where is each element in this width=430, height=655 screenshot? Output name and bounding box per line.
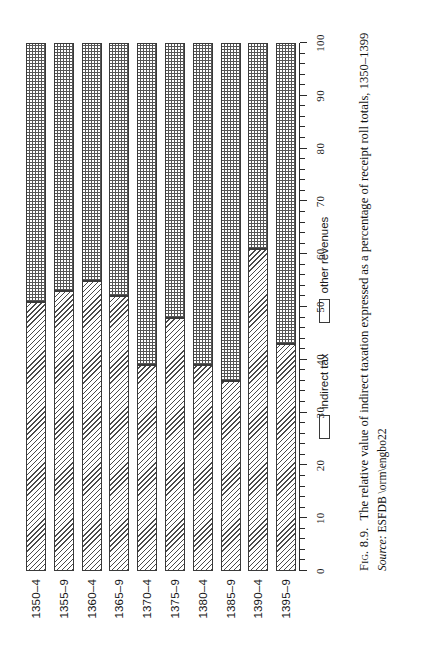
x-axis-minor-tick <box>300 401 305 402</box>
category-label: 1380–4 <box>197 579 209 619</box>
category-label: 1360–4 <box>86 579 98 619</box>
x-axis-minor-tick <box>300 549 305 550</box>
x-axis-minor-tick <box>300 338 305 339</box>
bar-row[interactable]: 1375–9 <box>165 43 185 571</box>
legend-item-other-revenues: other revenues <box>318 217 330 324</box>
x-axis-minor-tick <box>300 507 305 508</box>
x-axis-minor-tick <box>300 528 305 529</box>
x-axis-minor-tick <box>300 538 305 539</box>
bar-segment-hatch[interactable] <box>54 291 74 571</box>
x-axis-minor-tick <box>300 454 305 455</box>
x-axis-minor-tick <box>300 317 305 318</box>
bar-row[interactable]: 1350–4 <box>26 43 46 571</box>
bar-segment-dots[interactable] <box>82 43 102 281</box>
bar-row[interactable]: 1385–9 <box>221 43 241 571</box>
category-label: 1375–9 <box>169 579 181 619</box>
bar-row[interactable]: 1395–9 <box>276 43 296 571</box>
figure-caption: Fig. 8.9.The relative value of indirect … <box>356 31 373 571</box>
bar-segment-dots[interactable] <box>193 43 213 365</box>
legend-item-indirect-tax: indirect tax <box>318 353 330 439</box>
x-axis-minor-tick <box>300 443 305 444</box>
bar-segment-hatch[interactable] <box>165 318 185 571</box>
x-axis-major-tick <box>300 306 307 307</box>
x-axis-line <box>299 43 300 571</box>
legend-swatch-hatch-icon <box>319 415 330 439</box>
bar-segment-hatch[interactable] <box>26 302 46 571</box>
x-axis-minor-tick <box>300 422 305 423</box>
x-axis-major-tick <box>300 412 307 413</box>
x-axis-minor-tick <box>300 285 305 286</box>
x-axis-tick-label: 100 <box>314 28 326 58</box>
bar-segment-hatch[interactable] <box>109 296 129 571</box>
x-axis-minor-tick <box>300 295 305 296</box>
x-axis-tick-label: 10 <box>314 503 326 533</box>
source-label: Source: <box>376 535 389 571</box>
x-axis-minor-tick <box>300 486 305 487</box>
bar-segment-hatch[interactable] <box>193 365 213 571</box>
x-axis-major-tick <box>300 148 307 149</box>
x-axis-minor-tick <box>300 559 305 560</box>
x-axis-minor-tick <box>300 433 305 434</box>
figure-caption-block: Fig. 8.9.The relative value of indirect … <box>356 31 389 571</box>
category-label: 1365–9 <box>113 579 125 619</box>
bar-segment-hatch[interactable] <box>221 381 241 571</box>
bar-group: 1350–41355–91360–41365–91370–41375–91380… <box>22 43 300 571</box>
category-label: 1350–4 <box>30 579 42 619</box>
category-label: 1370–4 <box>141 579 153 619</box>
x-axis-minor-tick <box>300 380 305 381</box>
x-axis-minor-tick <box>300 179 305 180</box>
x-axis-minor-tick <box>300 211 305 212</box>
bar-row[interactable]: 1365–9 <box>109 43 129 571</box>
x-axis-minor-tick <box>300 116 305 117</box>
x-axis-major-tick <box>300 359 307 360</box>
x-axis-minor-tick <box>300 327 305 328</box>
category-label: 1390–4 <box>252 579 264 619</box>
legend-swatch-dots-icon <box>319 299 330 323</box>
category-label: 1385–9 <box>225 579 237 619</box>
x-axis-tick-label: 80 <box>314 134 326 164</box>
x-axis-tick-label: 0 <box>314 556 326 586</box>
bar-segment-hatch[interactable] <box>137 365 157 571</box>
bar-segment-dots[interactable] <box>109 43 129 296</box>
x-axis-minor-tick <box>300 274 305 275</box>
x-axis-minor-tick <box>300 53 305 54</box>
x-axis-minor-tick <box>300 63 305 64</box>
x-axis-major-tick <box>300 570 307 571</box>
x-axis-minor-tick <box>300 390 305 391</box>
bar-segment-dots[interactable] <box>276 43 296 344</box>
bar-row[interactable]: 1390–4 <box>248 43 268 571</box>
bar-segment-dots[interactable] <box>54 43 74 291</box>
x-axis-major-tick <box>300 253 307 254</box>
x-axis-major-tick <box>300 517 307 518</box>
x-axis-minor-tick <box>300 348 305 349</box>
x-axis-minor-tick <box>300 158 305 159</box>
legend-label-other-revenues: other revenues <box>318 217 330 294</box>
bar-segment-dots[interactable] <box>221 43 241 381</box>
bar-segment-hatch[interactable] <box>276 344 296 571</box>
x-axis-minor-tick <box>300 74 305 75</box>
x-axis-minor-tick <box>300 137 305 138</box>
x-axis-major-tick <box>300 42 307 43</box>
x-axis-minor-tick <box>300 222 305 223</box>
x-axis-minor-tick <box>300 264 305 265</box>
x-axis-minor-tick <box>300 475 305 476</box>
x-axis-minor-tick <box>300 496 305 497</box>
bar-row[interactable]: 1370–4 <box>137 43 157 571</box>
x-axis-minor-tick <box>300 169 305 170</box>
x-axis-minor-tick <box>300 232 305 233</box>
bar-segment-hatch[interactable] <box>248 249 268 571</box>
x-axis-major-tick <box>300 200 307 201</box>
x-axis-minor-tick <box>300 84 305 85</box>
bar-segment-dots[interactable] <box>26 43 46 302</box>
bar-segment-dots[interactable] <box>248 43 268 249</box>
bar-row[interactable]: 1360–4 <box>82 43 102 571</box>
bar-segment-dots[interactable] <box>137 43 157 365</box>
bar-row[interactable]: 1380–4 <box>193 43 213 571</box>
bar-segment-hatch[interactable] <box>82 281 102 571</box>
figure-number: Fig. 8.9. <box>357 528 371 572</box>
x-axis-tick-label: 20 <box>314 450 326 480</box>
legend-label-indirect-tax: indirect tax <box>318 353 330 409</box>
bar-row[interactable]: 1355–9 <box>54 43 74 571</box>
x-axis-minor-tick <box>300 243 305 244</box>
bar-segment-dots[interactable] <box>165 43 185 318</box>
